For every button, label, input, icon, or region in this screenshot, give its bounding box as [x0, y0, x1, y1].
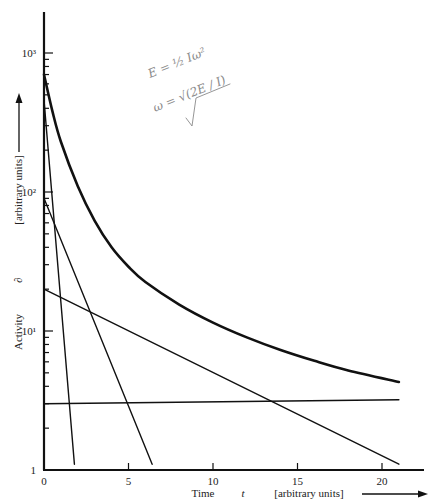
right-arrow-icon — [418, 491, 428, 498]
x-tick-label: 0 — [41, 475, 47, 487]
handwritten-text: E = ½ Iω² — [145, 45, 208, 81]
y-axis-title: Activity∂[arbitrary units] — [12, 155, 24, 350]
x-axis-title-units: [arbitrary units] — [274, 487, 343, 499]
handwritten-energy-formula: E = ½ Iω² — [145, 45, 208, 81]
x-axis-title-symbol: t — [241, 487, 245, 499]
handwritten-omega-formula: ω = √(2E / I) — [151, 73, 228, 115]
x-tick-label: 10 — [208, 475, 220, 487]
component-line-1 — [44, 100, 74, 464]
component-line-4 — [44, 400, 399, 404]
x-tick-label: 20 — [377, 475, 389, 487]
x-tick-label: 15 — [292, 475, 304, 487]
x-tick-label: 5 — [126, 475, 132, 487]
y-axis-title-symbol: ∂ — [12, 277, 24, 282]
y-axis-title-quantity: Activity — [12, 313, 24, 350]
component-line-2 — [44, 198, 152, 464]
y-axis-title-units: [arbitrary units] — [12, 155, 24, 224]
x-axis-title-quantity: Time — [192, 487, 215, 499]
handwritten-notes: E = ½ Iω²ω = √(2E / I) — [145, 45, 230, 126]
y-tick-label: 1 — [31, 464, 37, 476]
total-activity-curve — [44, 75, 399, 382]
series-layer — [44, 75, 399, 465]
decay-chart: E = ½ Iω²ω = √(2E / I) 110¹10²10³0510152… — [0, 0, 433, 502]
handwritten-text: ω = √(2E / I) — [151, 73, 228, 115]
up-arrow-icon — [16, 93, 23, 103]
component-line-3 — [44, 289, 399, 464]
y-tick-label: 10³ — [22, 47, 37, 59]
